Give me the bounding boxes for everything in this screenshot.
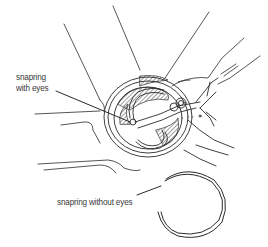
- label-with-eyes-line-1: snapring: [16, 71, 49, 82]
- snapring-without-eyes: [158, 172, 226, 238]
- label-snapring-with-eyes: snapring with eyes: [16, 71, 49, 93]
- label-snapring-without-eyes: snapring without eyes: [57, 196, 132, 207]
- snap-ring-illustration: [0, 0, 268, 247]
- leader-line-with-eyes: [56, 91, 130, 122]
- figure-canvas: snapring with eyes snapring without eyes: [0, 0, 268, 247]
- leader-line-without-eyes: [137, 186, 161, 195]
- label-with-eyes-line-2: with eyes: [16, 82, 49, 93]
